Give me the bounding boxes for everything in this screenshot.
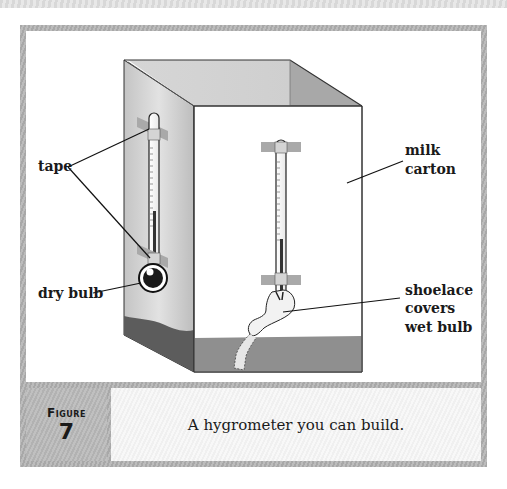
label-tape: tape: [38, 158, 72, 174]
label-shoelace: shoelace: [405, 282, 473, 298]
label-carton: carton: [405, 161, 456, 177]
label-covers: covers: [405, 300, 455, 316]
label-milk: milk: [405, 142, 440, 158]
label-dry-bulb: dry bulb: [38, 285, 103, 301]
mercury-column-wet: [280, 239, 283, 294]
milk-carton: [124, 60, 362, 372]
water-front: [194, 336, 362, 372]
hygrometer-illustration: tape dry bulb milk carton shoelace cover…: [0, 0, 507, 489]
label-wet-bulb: wet bulb: [404, 319, 473, 335]
